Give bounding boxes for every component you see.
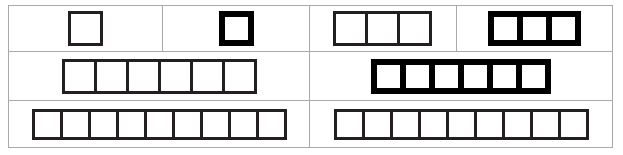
unit-square xyxy=(530,109,561,140)
unit-square xyxy=(362,109,393,140)
unit-square xyxy=(62,59,97,94)
row-3 xyxy=(9,101,612,147)
unit-square xyxy=(172,109,203,140)
unit-square xyxy=(256,109,287,140)
unit-square xyxy=(219,11,254,46)
unit-square xyxy=(390,109,421,140)
unit-square xyxy=(200,109,231,140)
unit-square xyxy=(516,59,551,94)
unit-square xyxy=(502,109,533,140)
unit-square xyxy=(365,11,400,46)
square-strip-three-thin xyxy=(333,11,432,46)
unit-square xyxy=(228,109,259,140)
unit-square xyxy=(418,109,449,140)
unit-square xyxy=(32,109,63,140)
unit-square xyxy=(397,11,432,46)
row1-cell3 xyxy=(310,6,457,51)
unit-square xyxy=(144,109,175,140)
square-strip-three-thick xyxy=(488,11,581,46)
row-1 xyxy=(9,6,612,52)
unit-square xyxy=(558,109,589,140)
row2-cell1 xyxy=(9,52,310,100)
unit-square xyxy=(334,109,365,140)
square-strip-single-thick xyxy=(219,11,254,46)
row3-cell2 xyxy=(310,101,612,147)
square-strip-nine-right xyxy=(334,109,589,140)
square-strip-six-thin xyxy=(62,59,257,94)
unit-square xyxy=(158,59,193,94)
row3-cell1 xyxy=(9,101,310,147)
square-strip-single-thin xyxy=(68,11,103,46)
unit-square xyxy=(88,109,119,140)
unit-square xyxy=(60,109,91,140)
unit-square xyxy=(474,109,505,140)
unit-square xyxy=(446,109,477,140)
row1-cell2 xyxy=(163,6,310,51)
unit-square xyxy=(333,11,368,46)
figure-canvas xyxy=(0,0,623,155)
square-strip-six-thick xyxy=(371,59,551,94)
unit-square xyxy=(94,59,129,94)
row1-cell4 xyxy=(457,6,612,51)
unit-square xyxy=(126,59,161,94)
unit-square xyxy=(190,59,225,94)
square-strip-nine-left xyxy=(32,109,287,140)
unit-square xyxy=(546,11,581,46)
unit-square xyxy=(68,11,103,46)
row1-cell1 xyxy=(9,6,163,51)
row2-cell2 xyxy=(310,52,612,100)
row-2 xyxy=(9,52,612,101)
outer-frame xyxy=(8,5,613,148)
unit-square xyxy=(222,59,257,94)
unit-square xyxy=(116,109,147,140)
